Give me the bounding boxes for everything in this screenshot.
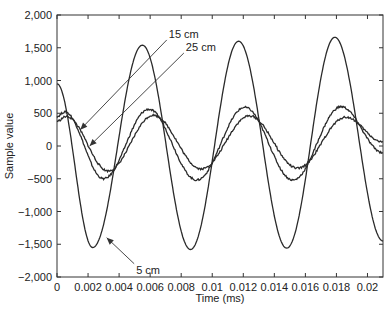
annotation-label: 5 cm <box>136 264 160 276</box>
y-tick-label: −1,000 <box>18 206 52 218</box>
annotation-label: 15 cm <box>169 28 199 40</box>
x-tick-label: 0.004 <box>105 281 133 293</box>
y-tick-label: 1,000 <box>24 75 52 87</box>
x-tick-label: 0.02 <box>357 281 378 293</box>
line-chart: 00.0020.0040.0060.0080.010.0120.0140.016… <box>0 0 392 314</box>
y-tick-label: −500 <box>27 173 52 185</box>
x-tick-label: 0.006 <box>136 281 164 293</box>
y-tick-label: −1,500 <box>18 238 52 250</box>
y-axis-title: Sample value <box>3 113 15 180</box>
x-tick-label: 0.016 <box>292 281 320 293</box>
x-axis-title: Time (ms) <box>195 292 244 304</box>
y-tick-label: 0 <box>46 140 52 152</box>
y-tick-label: 500 <box>34 107 52 119</box>
x-tick-label: 0.002 <box>74 281 102 293</box>
annotation-label: 25 cm <box>186 41 216 53</box>
x-tick-label: 0 <box>54 281 60 293</box>
x-tick-label: 0.018 <box>323 281 351 293</box>
x-tick-label: 0.008 <box>167 281 195 293</box>
y-tick-label: −2,000 <box>18 271 52 283</box>
y-tick-label: 1,500 <box>24 42 52 54</box>
x-tick-label: 0.014 <box>261 281 289 293</box>
y-tick-label: 2,000 <box>24 9 52 21</box>
